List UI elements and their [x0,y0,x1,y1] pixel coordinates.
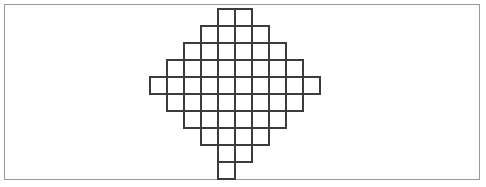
diamond-figure-svg [0,0,486,187]
figure-canvas [0,0,486,187]
